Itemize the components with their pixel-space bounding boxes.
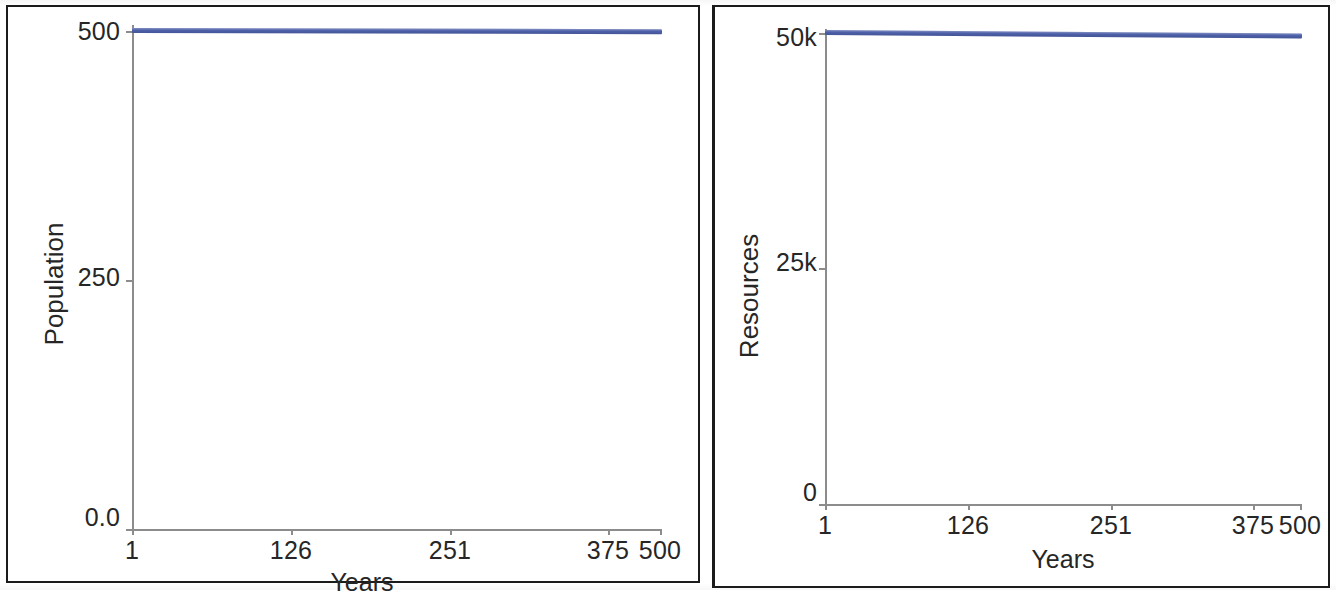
population-y-axis-line: [132, 25, 134, 531]
population-x-axis-title: Years: [307, 570, 417, 595]
population-panel: Population 500 250 0.0 1 126 251 375 5: [6, 5, 700, 583]
population-ytick-250: [126, 280, 132, 282]
resources-xtick-label-251: 251: [1071, 513, 1151, 538]
resources-x-axis-title: Years: [1008, 547, 1118, 572]
resources-xtick-500: [1300, 504, 1302, 510]
population-xtick-126: [291, 529, 293, 535]
resources-y-axis-title: Resources: [736, 221, 762, 371]
resources-xtick-375: [1253, 504, 1255, 510]
population-xtick-label-1: 1: [112, 538, 152, 563]
resources-ytick-25k: [819, 268, 825, 270]
population-ytick-label-0: 0.0: [22, 505, 120, 530]
resources-ytick-label-25k: 25k: [739, 250, 817, 275]
population-ytick-label-250: 250: [22, 265, 120, 290]
population-xtick-375: [608, 529, 610, 535]
population-plot-area: [132, 25, 662, 531]
resources-plot-area: [825, 29, 1302, 506]
resources-xtick-126: [968, 504, 970, 510]
resources-ytick-label-50k: 50k: [739, 25, 817, 50]
resources-panel: Resources 50k 25k 0 1 126 251 375 500: [712, 5, 1330, 588]
resources-xtick-1: [825, 504, 827, 510]
resources-series-line: [825, 30, 1302, 38]
population-xtick-label-126: 126: [251, 538, 331, 563]
population-series-line: [132, 28, 662, 34]
population-xtick-label-500: 500: [620, 538, 700, 563]
population-xtick-label-251: 251: [410, 538, 490, 563]
resources-xtick-label-126: 126: [928, 513, 1008, 538]
resources-ytick-label-0: 0: [739, 480, 817, 505]
population-x-axis-line: [132, 529, 662, 531]
population-xtick-1: [132, 529, 134, 535]
resources-y-axis-line: [825, 29, 827, 506]
population-xtick-500: [660, 529, 662, 535]
resources-x-axis-line: [825, 504, 1302, 506]
resources-xtick-label-500: 500: [1260, 513, 1336, 538]
resources-xtick-251: [1111, 504, 1113, 510]
population-ytick-label-500: 500: [22, 19, 120, 44]
resources-xtick-label-1: 1: [805, 513, 845, 538]
population-xtick-251: [450, 529, 452, 535]
